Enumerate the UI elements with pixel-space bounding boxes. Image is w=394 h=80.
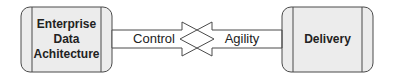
left-box-line-1: Enterprise [32, 17, 101, 32]
left-box-label: Enterprise Data Achitecture [32, 17, 101, 62]
right-box-label: Delivery [293, 32, 362, 47]
control-arrow-label: Control [124, 31, 184, 47]
left-box-line-3: Achitecture [32, 47, 101, 62]
agility-arrow-label: Agility [214, 31, 270, 47]
left-box-line-2: Data [32, 32, 101, 47]
